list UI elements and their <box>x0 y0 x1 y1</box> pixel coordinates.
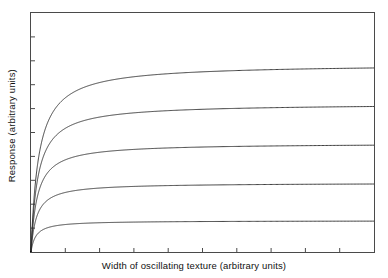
x-axis-label: Width of oscillating texture (arbitrary … <box>0 261 388 271</box>
figure: Response (arbitrary units) Width of osci… <box>0 0 388 278</box>
y-axis-label-container: Response (arbitrary units) <box>0 0 24 252</box>
chart-canvas <box>0 0 388 278</box>
plot-frame <box>31 13 375 253</box>
plot-area-border <box>31 13 375 253</box>
y-axis-label: Response (arbitrary units) <box>7 69 17 182</box>
